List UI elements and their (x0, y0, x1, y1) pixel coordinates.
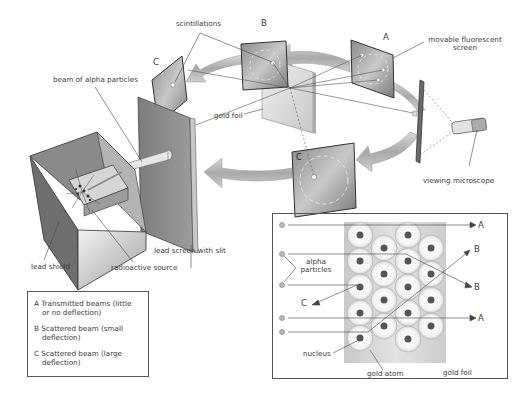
label-movable-line2: screen (425, 44, 505, 52)
legend-c-line2: deflection) (34, 359, 146, 368)
label-lead-shield: lead shield (31, 263, 70, 271)
lead-screen (138, 97, 198, 253)
screen-a (351, 40, 394, 98)
label-scintillations: scintillations (176, 20, 221, 28)
label-viewing-microscope: viewing microscope (423, 177, 494, 185)
inset-alpha-line2: particles (298, 266, 334, 274)
inset-label-gold-foil: gold foil (443, 369, 472, 377)
screen-bottom: C (292, 143, 356, 217)
screen-letter-b: B (261, 18, 267, 28)
screen-letter-c: C (153, 57, 159, 67)
inset-label-gold-atom: gold atom (367, 370, 403, 378)
screen-letter-a: A (383, 32, 389, 42)
legend-b-line2: deflection) (34, 334, 146, 343)
label-radioactive-source: radioactive source (111, 264, 177, 272)
legend-a-line2: or no deflection) (34, 309, 146, 318)
screen-right (413, 80, 424, 163)
legend-box: A Transmitted beams (little or no deflec… (27, 291, 149, 377)
inset-path-b-lower: B (474, 282, 480, 292)
label-lead-screen-with-slit: lead screen with slit (154, 247, 226, 255)
label-gold-foil: gold foil (214, 112, 243, 120)
inset-path-a-top: A (478, 220, 484, 230)
label-movable-fluorescent-screen: movable fluorescent screen (425, 36, 505, 52)
legend-item-c: C Scattered beam (large deflection) (34, 350, 146, 367)
inset-label-alpha-particles: alpha particles (298, 258, 334, 274)
legend-item-b: B Scattered beam (small deflection) (34, 325, 146, 342)
inset-path-b-upper: B (474, 244, 480, 254)
screen-b (241, 41, 288, 90)
inset-path-a-bottom: A (478, 313, 484, 323)
svg-text:C: C (296, 153, 302, 162)
arrow-bottom-to-left (204, 158, 292, 188)
inset-path-c: C (301, 298, 307, 308)
inset-label-nucleus: nucleus (303, 350, 331, 358)
arrow-right-to-bottom (356, 132, 418, 172)
microscope-body (420, 90, 487, 155)
legend-item-a: A Transmitted beams (little or no deflec… (34, 300, 146, 317)
label-beam-of-alpha-particles: beam of alpha particles (53, 76, 138, 84)
